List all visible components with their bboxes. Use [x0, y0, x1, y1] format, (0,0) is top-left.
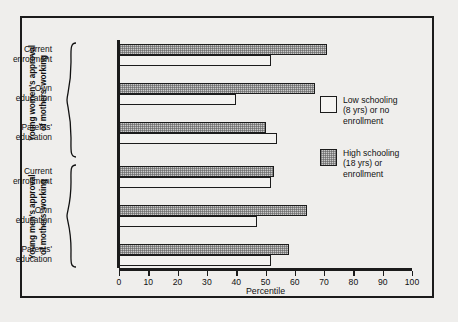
x-tick — [324, 271, 325, 276]
brace-women — [66, 42, 77, 158]
x-tick — [178, 271, 179, 276]
brace-men — [66, 164, 77, 268]
x-tick — [148, 271, 149, 276]
bar-low-men-own — [119, 216, 257, 227]
x-tick — [119, 271, 120, 276]
legend-item-high-schooling: High schooling (18 yrs) or enrollment — [320, 148, 399, 179]
category-label-men-own: Own education — [0, 205, 52, 225]
x-tick — [295, 271, 296, 276]
category-label-men-parents: Parents' education — [0, 244, 52, 264]
x-tick — [353, 271, 354, 276]
legend-label-low: Low schooling (8 yrs) or no enrollment — [343, 95, 397, 126]
x-axis-title: Percentile — [119, 286, 412, 296]
x-tick — [207, 271, 208, 276]
bar-low-women-own — [119, 94, 236, 105]
legend-swatch-high-icon — [320, 149, 337, 166]
legend-item-low-schooling: Low schooling (8 yrs) or no enrollment — [320, 95, 397, 126]
bar-high-men-current — [119, 166, 274, 177]
bar-high-women-parents — [119, 122, 266, 133]
legend-swatch-low-icon — [320, 96, 337, 113]
x-tick — [236, 271, 237, 276]
bar-high-men-parents — [119, 244, 289, 255]
chart-frame: Young women's approval of mothers' worki… — [20, 16, 434, 298]
category-label-women-own: Own education — [0, 83, 52, 103]
x-tick — [412, 271, 413, 276]
category-label-women-parents: Parents' education — [0, 122, 52, 142]
category-label-men-current: Current enrollment — [0, 166, 52, 186]
bar-high-women-own — [119, 83, 315, 94]
bar-high-men-own — [119, 205, 307, 216]
x-tick — [266, 271, 267, 276]
bar-low-women-current — [119, 55, 271, 66]
bar-high-women-current — [119, 44, 327, 55]
bar-low-men-parents — [119, 255, 271, 266]
bar-low-men-current — [119, 177, 271, 188]
x-axis: 0102030405060708090100 — [119, 268, 412, 271]
category-label-women-current: Current enrollment — [0, 44, 52, 64]
bar-low-women-parents — [119, 133, 277, 144]
x-tick — [383, 271, 384, 276]
legend-label-high: High schooling (18 yrs) or enrollment — [343, 148, 399, 179]
y-axis-line — [117, 40, 120, 268]
